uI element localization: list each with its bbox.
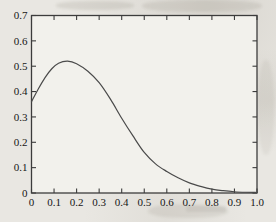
y-tick-label: 0.7 (14, 9, 28, 21)
x-tick-label: 0 (29, 196, 35, 208)
x-tick-label: 0.3 (92, 196, 106, 208)
y-tick-label: 0.4 (14, 85, 28, 97)
plot-area (32, 16, 258, 194)
x-tick-label: 0.7 (182, 196, 196, 208)
y-tick-label: 0.1 (14, 161, 28, 173)
x-tick-label: 0.9 (228, 196, 242, 208)
x-tick-label: 0.6 (160, 196, 174, 208)
x-tick-label: 0.4 (115, 196, 129, 208)
scanned-figure-page: 00.10.20.30.40.50.60.70.80.91.000.10.20.… (0, 0, 276, 222)
x-tick-label: 0.2 (70, 196, 84, 208)
line-chart-figure: 00.10.20.30.40.50.60.70.80.91.000.10.20.… (0, 0, 276, 222)
y-tick-label: 0.6 (14, 35, 28, 47)
y-tick-label: 0 (22, 187, 28, 199)
x-tick-label: 0.5 (137, 196, 151, 208)
x-tick-label: 0.8 (205, 196, 219, 208)
y-tick-label: 0.2 (14, 136, 28, 148)
y-tick-label: 0.3 (14, 111, 28, 123)
x-tick-label: 1.0 (250, 196, 264, 208)
x-tick-label: 0.1 (47, 196, 61, 208)
y-tick-label: 0.5 (14, 60, 28, 72)
